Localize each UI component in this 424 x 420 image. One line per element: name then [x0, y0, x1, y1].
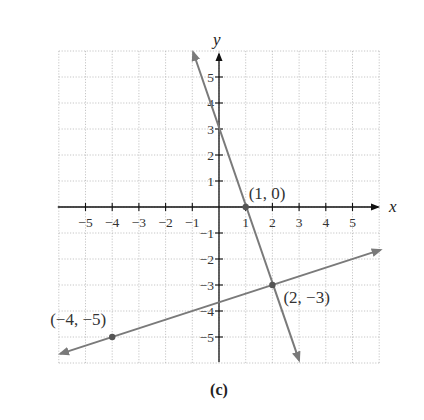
y-tick-label: 5 — [207, 70, 214, 85]
figure-caption: (c) — [210, 381, 228, 399]
line-2 — [60, 250, 380, 354]
x-tick-label: 4 — [322, 215, 329, 230]
point-label: (1, 0) — [249, 184, 286, 203]
x-tick-label: 2 — [269, 215, 276, 230]
data-point — [243, 204, 249, 210]
x-tick-label: −2 — [158, 215, 172, 230]
y-tick-label: −2 — [200, 252, 214, 267]
y-tick-label: −1 — [200, 226, 214, 241]
x-axis-label: x — [388, 197, 397, 216]
y-tick-label: 1 — [207, 174, 214, 189]
x-tick-label: −5 — [78, 215, 93, 230]
data-point — [269, 282, 275, 288]
graph: −5−4−3−2−112345−5−4−3−2−112345 (1, 0)(2,… — [0, 0, 424, 420]
x-tick-label: 5 — [349, 215, 356, 230]
x-tick-label: 3 — [296, 215, 303, 230]
x-tick-label: 1 — [242, 215, 249, 230]
y-axis-label: y — [211, 30, 221, 49]
x-tick-label: −3 — [132, 215, 147, 230]
series-lines — [60, 52, 380, 360]
y-tick-label: 3 — [207, 122, 214, 137]
x-tick-label: −1 — [185, 215, 199, 230]
point-label: (2, −3) — [283, 288, 329, 307]
x-tick-label: −4 — [105, 215, 120, 230]
y-tick-label: −5 — [200, 330, 215, 345]
y-tick-label: −3 — [200, 278, 215, 293]
point-label: (−4, −5) — [50, 310, 106, 329]
data-point — [109, 334, 115, 340]
y-tick-label: 2 — [207, 148, 214, 163]
